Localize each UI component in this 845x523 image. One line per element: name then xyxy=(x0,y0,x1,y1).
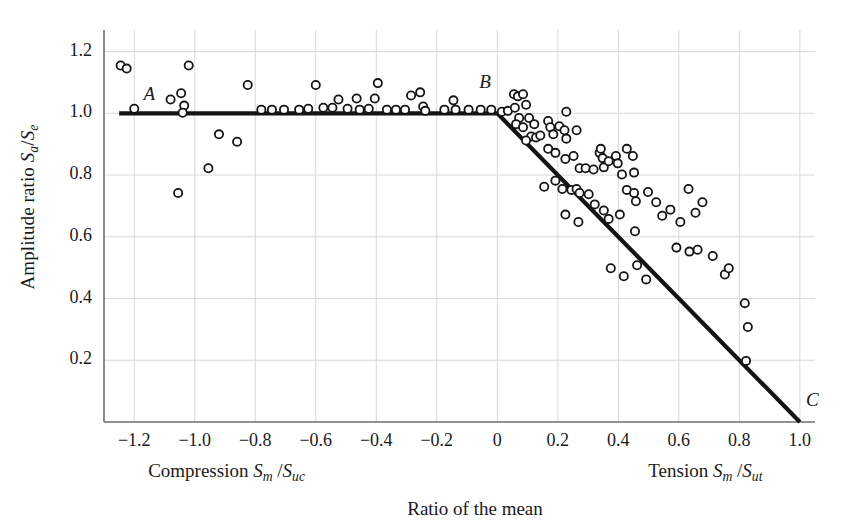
tension-sm-subscript: m xyxy=(722,469,732,484)
data-point-marker xyxy=(631,227,639,235)
data-point-marker xyxy=(742,357,750,365)
data-point-marker xyxy=(407,91,415,99)
data-point-marker xyxy=(741,299,749,307)
data-point-marker xyxy=(383,106,391,114)
data-point-marker xyxy=(576,189,584,197)
y-tick-label: 0.6 xyxy=(38,225,92,246)
y-tick-label: 0.2 xyxy=(38,348,92,369)
failure-envelope-line xyxy=(119,113,800,422)
x-axis-compression-caption: Compression Sm /Suc xyxy=(148,460,305,485)
data-point-marker xyxy=(449,96,457,104)
data-point-marker xyxy=(353,94,361,102)
fatigue-scatter-figure: Amplitude ratio Sa/Se Compression Sm /Su… xyxy=(0,0,845,523)
data-point-marker xyxy=(600,206,608,214)
data-point-marker xyxy=(343,105,351,113)
data-point-marker xyxy=(328,104,336,112)
data-point-marker xyxy=(540,183,548,191)
data-point-marker xyxy=(623,145,631,153)
data-point-marker xyxy=(642,275,650,283)
curve-point-label-c: C xyxy=(806,389,819,411)
compression-suc-symbol: S xyxy=(283,460,293,481)
data-point-marker xyxy=(551,177,559,185)
data-point-marker xyxy=(244,81,252,89)
data-point-marker xyxy=(620,272,628,280)
data-point-marker xyxy=(268,106,276,114)
data-point-marker xyxy=(464,106,472,114)
data-point-marker xyxy=(572,126,580,134)
data-point-marker xyxy=(607,264,615,272)
data-point-marker xyxy=(477,106,485,114)
data-point-marker xyxy=(401,106,409,114)
data-point-marker xyxy=(421,107,429,115)
data-point-marker xyxy=(658,212,666,220)
data-point-marker xyxy=(536,131,544,139)
data-point-marker xyxy=(319,104,327,112)
compression-sm-symbol: S xyxy=(253,460,263,481)
data-point-marker xyxy=(179,109,187,117)
curve-point-label-a: A xyxy=(143,83,155,105)
data-point-marker xyxy=(644,188,652,196)
y-axis-slash: / xyxy=(17,140,38,145)
data-point-marker xyxy=(280,106,288,114)
data-point-marker xyxy=(123,64,131,72)
data-point-marker xyxy=(174,189,182,197)
data-point-marker xyxy=(304,105,312,113)
gridlines xyxy=(104,30,815,422)
data-point-marker xyxy=(630,169,638,177)
y-axis-sa-subscript: a xyxy=(26,146,41,153)
data-point-marker xyxy=(558,185,566,193)
y-axis-sa-symbol: S xyxy=(17,153,38,163)
data-point-marker xyxy=(522,136,530,144)
data-point-marker xyxy=(440,106,448,114)
data-point-marker xyxy=(629,152,637,160)
data-point-marker xyxy=(487,106,495,114)
data-point-marker xyxy=(582,164,590,172)
tension-sm-symbol: S xyxy=(713,460,723,481)
x-axis-tension-caption: Tension Sm /Sut xyxy=(648,460,762,485)
data-point-marker xyxy=(616,210,624,218)
x-axis-title: Ratio of the mean xyxy=(407,498,543,520)
data-point-marker xyxy=(676,218,684,226)
data-point-marker xyxy=(589,165,597,173)
data-point-marker xyxy=(561,210,569,218)
data-point-marker xyxy=(530,120,538,128)
y-tick-label: 1.2 xyxy=(38,40,92,61)
data-point-marker xyxy=(744,323,752,331)
data-point-marker xyxy=(374,79,382,87)
compression-sm-subscript: m xyxy=(263,469,273,484)
data-point-marker xyxy=(130,105,138,113)
data-point-marker xyxy=(177,89,185,97)
data-point-marker xyxy=(334,95,342,103)
data-point-marker xyxy=(561,155,569,163)
compression-suc-subscript: uc xyxy=(292,469,305,484)
data-point-marker xyxy=(522,101,530,109)
data-point-marker xyxy=(451,106,459,114)
data-point-marker xyxy=(562,108,570,116)
data-point-marker xyxy=(652,198,660,206)
y-axis-title-text: Amplitude ratio Sa/Se xyxy=(17,125,38,290)
data-point-marker xyxy=(618,170,626,178)
data-point-marker xyxy=(614,159,622,167)
data-point-marker xyxy=(632,197,640,205)
tension-sut-symbol: S xyxy=(742,460,752,481)
data-point-marker xyxy=(591,200,599,208)
data-point-marker xyxy=(585,190,593,198)
data-point-marker xyxy=(633,261,641,269)
y-axis-se-subscript: e xyxy=(26,125,41,131)
data-point-marker xyxy=(560,126,568,134)
data-point-marker xyxy=(257,106,265,114)
data-point-marker xyxy=(519,123,527,131)
data-point-marker xyxy=(698,198,706,206)
data-point-marker xyxy=(725,264,733,272)
data-point-marker xyxy=(416,88,424,96)
data-point-marker xyxy=(392,106,400,114)
y-tick-label: 1.0 xyxy=(38,101,92,122)
data-point-marker xyxy=(551,149,559,157)
data-point-marker xyxy=(549,130,557,138)
data-point-marker xyxy=(519,90,527,98)
data-point-marker xyxy=(605,215,613,223)
data-point-marker xyxy=(694,246,702,254)
data-point-marker xyxy=(204,164,212,172)
tension-sut-subscript: ut xyxy=(752,469,763,484)
data-point-marker xyxy=(685,248,693,256)
